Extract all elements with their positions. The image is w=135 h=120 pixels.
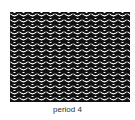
pattern-figure	[10, 12, 130, 102]
figure-caption: period 4	[0, 105, 135, 114]
tiling-pattern-image	[10, 12, 130, 102]
